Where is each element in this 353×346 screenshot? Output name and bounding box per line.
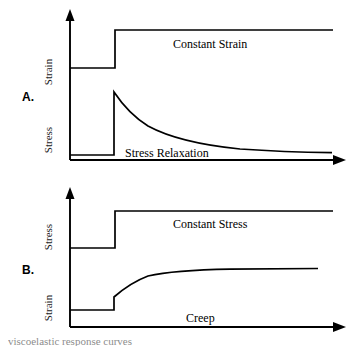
panel-a-lower-axis-label: Stress — [42, 127, 54, 153]
panel-b-lower-axis-label: Strain — [42, 294, 54, 321]
panel-a-y-axis-arrowhead — [66, 9, 75, 21]
panel-a-letter: A. — [22, 90, 34, 104]
panel-a-upper-curve-label: Constant Strain — [173, 37, 247, 51]
panel-b-upper-axis-label: Stress — [42, 224, 54, 250]
panel-b-upper-curve-label: Constant Stress — [173, 217, 248, 231]
panel-b-lower-curve-label: Creep — [186, 311, 215, 325]
panel-b-x-axis-arrowhead — [333, 322, 346, 332]
clipped-caption: viscoelastic response curves — [0, 338, 353, 346]
panel-b-y-axis-arrowhead — [66, 187, 75, 199]
panel-a-upper-axis-label: Strain — [42, 58, 54, 85]
clipped-caption-text: viscoelastic response curves — [8, 338, 132, 346]
panel-b-creep-curve — [70, 269, 318, 311]
panel-a-lower-curve-label: Stress Relaxation — [125, 146, 209, 160]
panel-b: B. Stress Strain Constant Stress Creep — [22, 187, 346, 332]
panel-b-letter: B. — [22, 263, 34, 277]
panel-a: A. Strain Stress Constant Strain Stress … — [22, 9, 346, 165]
viscoelasticity-figure: A. Strain Stress Constant Strain Stress … — [0, 0, 353, 346]
panel-a-x-axis-arrowhead — [333, 155, 346, 165]
